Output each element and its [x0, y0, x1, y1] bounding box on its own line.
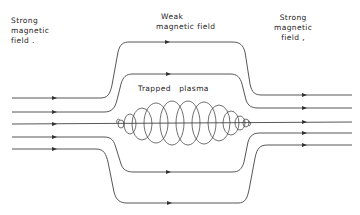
left-field-label: Strong magnetic field .	[11, 16, 49, 46]
left-label-line-1: Strong	[11, 16, 49, 26]
center-label-line-2: magnetic field	[156, 22, 215, 32]
center-field-label: Weak magnetic field	[156, 12, 215, 32]
right-label-line-2: magnetic	[274, 23, 312, 33]
field-line-axis	[12, 122, 352, 124]
right-field-label: Strong magnetic field ,	[274, 13, 312, 43]
field-line-outer-bottom	[12, 145, 352, 203]
right-label-line-1: Strong	[274, 13, 312, 23]
field-line-inner-bottom	[12, 133, 352, 172]
center-label-line-1: Weak	[156, 12, 215, 22]
right-label-line-3: field ,	[274, 33, 312, 43]
left-label-line-3: field .	[11, 36, 49, 46]
left-label-line-2: magnetic	[11, 26, 49, 36]
trapped-plasma-label: Trapped plasma	[138, 84, 209, 94]
